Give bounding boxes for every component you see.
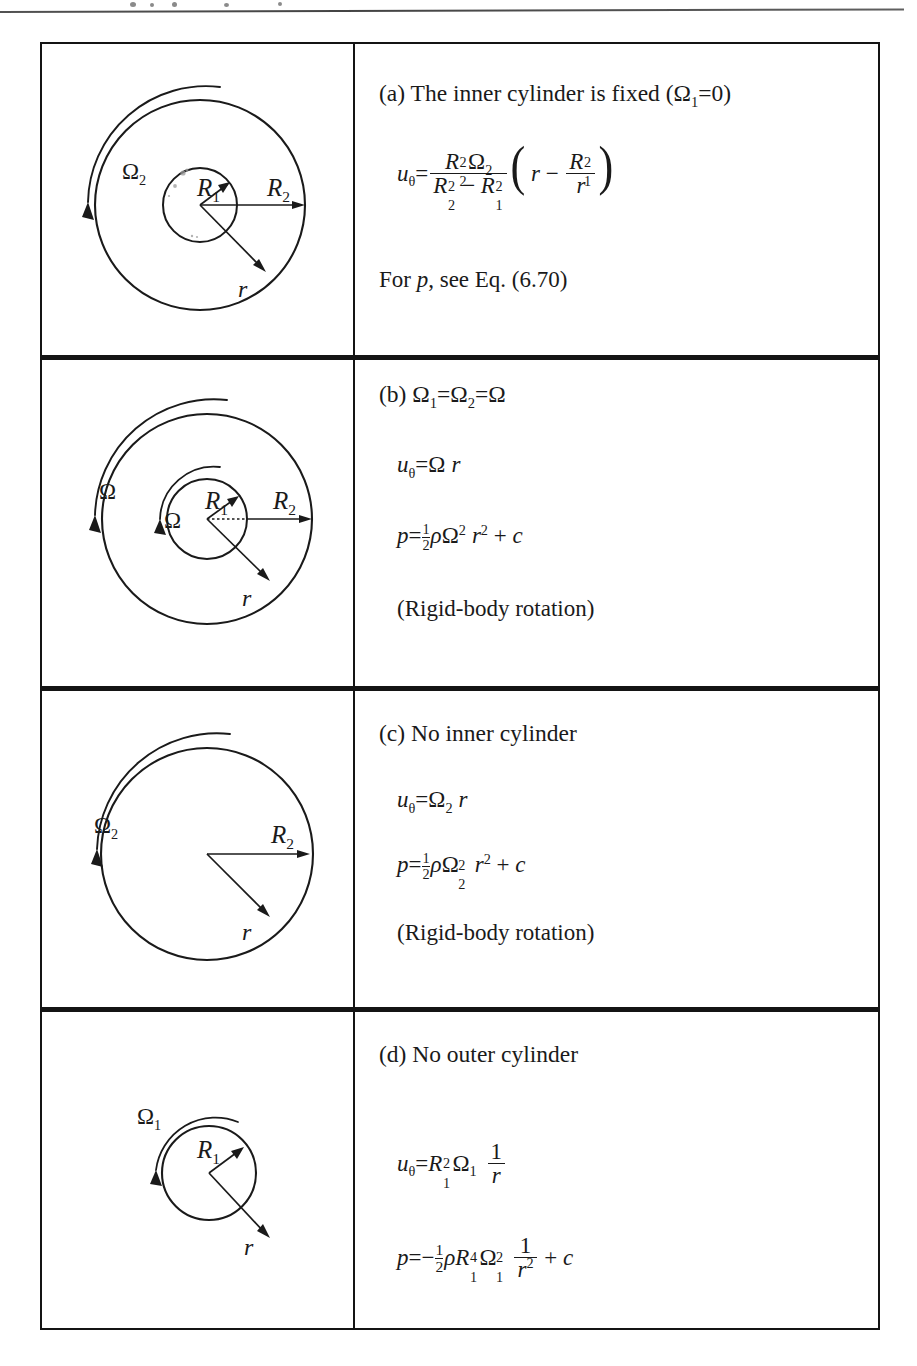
r2-arrowhead: [292, 201, 305, 209]
label-r: r: [244, 1235, 253, 1259]
omega-arrowhead: [82, 202, 94, 220]
equation-b-pressure: p=12ρΩ2r2 + c: [397, 523, 523, 553]
equation-d-u-theta: uθ=R21Ω11r: [397, 1142, 507, 1189]
text-cell-a: (a) The inner cylinder is fixed (Ω1=0) u…: [353, 44, 878, 355]
table-row: Ω Ω R1 R2 r (b) Ω1=Ω2=Ω uθ=Ωr p=1: [42, 357, 878, 686]
panel-heading-a: (a) The inner cylinder is fixed (Ω1=0): [379, 82, 731, 106]
equation-a-u-theta: uθ=R22Ω2R22 − R21(r − R21r): [397, 152, 615, 199]
annulus-two-cylinders-both-rotating-diagram: [42, 357, 353, 686]
panel-heading-b: (b) Ω1=Ω2=Ω: [379, 383, 506, 407]
equation-c-u-theta: uθ=Ω2r: [397, 788, 467, 811]
equation-d-pressure: p=−12ρR41Ω211r2 + c: [397, 1236, 573, 1283]
r1-arrowhead: [227, 496, 239, 507]
label-omega-outer: Ω: [99, 480, 116, 503]
r2-arrowhead: [299, 515, 312, 523]
figure-table: Ω2 R1 R2 r (a) The inner cylinder is fix…: [40, 42, 880, 1330]
equation-c-pressure: p=12ρΩ22r2 + c: [397, 852, 526, 882]
omega-outer-arrowhead: [89, 515, 101, 533]
panel-note-c: (Rigid-body rotation): [397, 921, 594, 944]
r2-arrowhead: [297, 850, 310, 858]
equation-b-u-theta: uθ=Ωr: [397, 453, 460, 476]
text-cell-d: (d) No outer cylinder uθ=R21Ω11r p=−12ρR…: [353, 1010, 878, 1328]
text-cell-b: (b) Ω1=Ω2=Ω uθ=Ωr p=12ρΩ2r2 + c (Rigid-b…: [353, 357, 878, 686]
single-cylinder-no-inner-diagram: [42, 689, 353, 1007]
label-R2: R2: [271, 822, 294, 847]
label-omega-2: Ω2: [122, 160, 146, 183]
label-r: r: [238, 277, 247, 301]
table-row: Ω2 R1 R2 r (a) The inner cylinder is fix…: [42, 44, 878, 355]
label-r: r: [242, 586, 251, 610]
figure-cell-c: Ω2 R2 r: [42, 689, 353, 1007]
text-cell-c: (c) No inner cylinder uθ=Ω2r p=12ρΩ22r2 …: [353, 689, 878, 1007]
figure-cell-a: Ω2 R1 R2 r: [42, 44, 353, 355]
figure-cell-d: Ω1 R1 r: [42, 1010, 353, 1328]
panel-note-a: For p, see Eq. (6.70): [379, 268, 567, 291]
label-R1: R1: [205, 488, 228, 513]
label-omega-inner: Ω: [164, 509, 181, 532]
r1-arrowhead: [231, 1147, 244, 1159]
table-row: Ω2 R2 r (c) No inner cylinder uθ=Ω2r p=1…: [42, 689, 878, 1007]
label-omega-1: Ω1: [137, 1105, 161, 1128]
panel-heading-c: (c) No inner cylinder: [379, 722, 577, 746]
omega-arrowhead: [150, 1170, 162, 1186]
label-R2: R2: [267, 175, 290, 200]
single-cylinder-no-outer-diagram: [42, 1010, 353, 1328]
page-top-text-remnant: [128, 2, 318, 11]
panel-heading-d: (d) No outer cylinder: [379, 1043, 578, 1067]
label-R1: R1: [197, 175, 220, 200]
label-omega-2: Ω2: [94, 814, 118, 837]
label-R2: R2: [273, 488, 296, 513]
table-row: Ω1 R1 r (d) No outer cylinder uθ=R21Ω11r…: [42, 1010, 878, 1328]
label-R1: R1: [197, 1137, 220, 1162]
panel-note-b: (Rigid-body rotation): [397, 597, 594, 620]
label-r: r: [242, 920, 251, 944]
figure-cell-b: Ω Ω R1 R2 r: [42, 357, 353, 686]
